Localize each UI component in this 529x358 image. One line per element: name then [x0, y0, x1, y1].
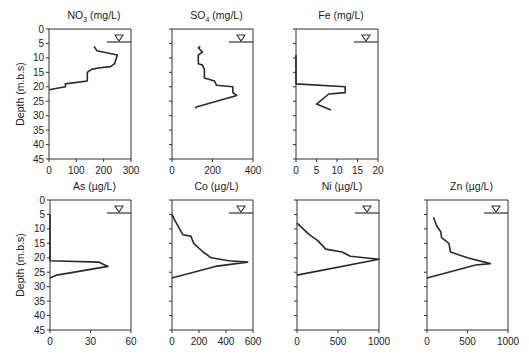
data-line	[172, 214, 248, 278]
water-table-triangle-icon	[492, 206, 500, 212]
y-tick-label: 0	[38, 24, 44, 35]
data-line	[49, 46, 117, 89]
y-tick-label: 5	[38, 38, 44, 49]
x-tick-label: 5	[314, 165, 320, 176]
y-tick-label: 25	[33, 96, 45, 107]
y-tick-label: 10	[34, 223, 46, 234]
x-tick-label: 0	[46, 165, 52, 176]
y-tick-label: 45	[33, 154, 45, 165]
y-tick-label: 30	[34, 281, 46, 292]
water-table-triangle-icon	[237, 35, 245, 41]
water-table-triangle-icon	[363, 206, 371, 212]
data-line	[297, 223, 379, 275]
x-tick-label: 0	[424, 336, 430, 347]
figure: NO3 (mg/L)0510152025303540450100200300De…	[0, 0, 529, 358]
x-tick-label: 0	[294, 336, 300, 347]
chart-panel-3: As (µg/L)05101520253035404503060Depth (m…	[14, 180, 137, 347]
chart-panel-2: Fe (mg/L)05101520	[293, 9, 384, 176]
data-line	[427, 217, 490, 278]
data-line	[296, 55, 345, 110]
water-table-triangle-icon	[237, 206, 245, 212]
chart-title: As (µg/L)	[73, 180, 116, 192]
chart-title: Ni (µg/L)	[322, 180, 362, 192]
depth-profile-charts: NO3 (mg/L)0510152025303540450100200300De…	[0, 0, 529, 358]
y-tick-label: 15	[34, 238, 46, 249]
x-tick-label: 200	[204, 165, 221, 176]
x-tick-label: 600	[245, 336, 262, 347]
x-tick-label: 1000	[497, 336, 520, 347]
y-tick-label: 15	[33, 67, 45, 78]
x-tick-label: 0	[47, 336, 53, 347]
chart-panel-0: NO3 (mg/L)0510152025303540450100200300De…	[14, 9, 140, 176]
x-tick-label: 400	[218, 336, 235, 347]
x-tick-label: 60	[125, 336, 137, 347]
chart-title: Co (µg/L)	[195, 180, 239, 192]
chart-title: NO3 (mg/L)	[68, 9, 121, 23]
x-tick-label: 1000	[368, 336, 391, 347]
x-tick-label: 200	[191, 336, 208, 347]
y-tick-label: 35	[34, 296, 46, 307]
y-tick-label: 30	[33, 110, 45, 121]
chart-title: Zn (µg/L)	[450, 180, 493, 192]
x-tick-label: 0	[169, 165, 175, 176]
y-tick-label: 40	[33, 139, 45, 150]
y-axis-label: Depth (m.b.s)	[14, 233, 26, 297]
x-tick-label: 500	[330, 336, 347, 347]
chart-title: SO4 (mg/L)	[190, 9, 242, 23]
chart-panel-6: Zn (µg/L)05001000	[424, 180, 520, 347]
chart-panel-4: Co (µg/L)0200400600	[169, 180, 262, 347]
x-tick-label: 500	[459, 336, 476, 347]
y-tick-label: 40	[34, 310, 46, 321]
y-tick-label: 25	[34, 267, 46, 278]
x-tick-label: 300	[123, 165, 140, 176]
chart-panel-1: SO4 (mg/L)0200400	[169, 9, 262, 176]
x-tick-label: 10	[331, 165, 343, 176]
y-tick-label: 0	[39, 195, 45, 206]
y-tick-label: 20	[33, 81, 45, 92]
x-tick-label: 30	[85, 336, 97, 347]
data-line	[50, 214, 108, 278]
y-tick-label: 5	[39, 209, 45, 220]
x-tick-label: 0	[293, 165, 299, 176]
chart-title: Fe (mg/L)	[318, 9, 364, 21]
water-table-triangle-icon	[115, 35, 123, 41]
chart-panel-5: Ni (µg/L)05001000	[294, 180, 391, 347]
y-tick-label: 10	[33, 52, 45, 63]
y-tick-label: 45	[34, 325, 46, 336]
x-tick-label: 20	[372, 165, 384, 176]
x-tick-label: 400	[245, 165, 262, 176]
data-line	[195, 46, 237, 108]
water-table-triangle-icon	[362, 35, 370, 41]
x-tick-label: 0	[169, 336, 175, 347]
x-tick-label: 100	[68, 165, 85, 176]
y-tick-label: 35	[33, 125, 45, 136]
y-axis-label: Depth (m.b.s)	[14, 62, 26, 126]
x-tick-label: 15	[352, 165, 364, 176]
water-table-triangle-icon	[115, 206, 123, 212]
y-tick-label: 20	[34, 252, 46, 263]
x-tick-label: 200	[95, 165, 112, 176]
